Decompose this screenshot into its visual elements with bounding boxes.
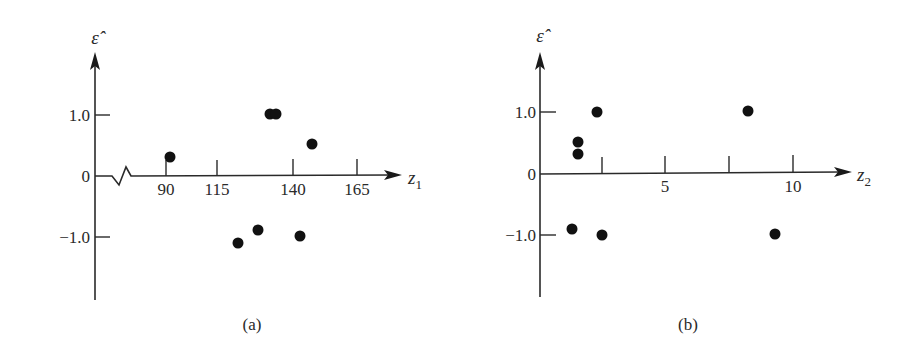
- x-tick-label: 10: [785, 177, 802, 196]
- x-tick-label: 90: [158, 180, 175, 199]
- y-tick-label: 0: [82, 167, 91, 186]
- y-tick-label: −1.0: [59, 228, 90, 247]
- x-tick-label: 140: [280, 180, 306, 199]
- y-tick-label: −1.0: [505, 226, 536, 245]
- scatter-plot-b: ε̂ 1.0 0 −1.0 z2 5 10 (b): [456, 0, 913, 361]
- data-point: [573, 149, 584, 160]
- x-tick-label: 115: [205, 180, 230, 199]
- data-point: [307, 139, 318, 150]
- residual-plot-a: ε̂ 1.0 0 −1.0 z1 90 115 140 165 (a): [0, 0, 456, 361]
- data-points-a: [165, 109, 318, 249]
- data-point: [597, 230, 608, 241]
- x-tick-label: 5: [661, 177, 670, 196]
- y-axis-label-b: ε̂: [536, 25, 551, 46]
- data-point: [743, 106, 754, 117]
- data-point: [233, 238, 244, 249]
- y-tick-label: 1.0: [69, 106, 90, 125]
- residual-plot-b: ε̂ 1.0 0 −1.0 z2 5 10 (b): [456, 0, 913, 361]
- x-tick-label: 165: [344, 180, 370, 199]
- scatter-plot-a: ε̂ 1.0 0 −1.0 z1 90 115 140 165 (a): [0, 0, 456, 361]
- data-point: [573, 137, 584, 148]
- y-axis-label-a: ε̂: [91, 27, 106, 48]
- x-axis-label-b: z2: [856, 164, 871, 189]
- data-point: [567, 224, 578, 235]
- data-point: [253, 225, 264, 236]
- x-axis-label-a: z1: [407, 167, 422, 192]
- data-point: [295, 231, 306, 242]
- panel-caption-b: (b): [678, 315, 698, 334]
- y-tick-label: 0: [528, 165, 537, 184]
- data-point: [592, 107, 603, 118]
- data-point: [271, 109, 282, 120]
- panel-caption-a: (a): [243, 315, 262, 334]
- data-point: [165, 152, 176, 163]
- y-tick-label: 1.0: [515, 103, 536, 122]
- data-point: [770, 229, 781, 240]
- x-axis-b: [540, 172, 841, 174]
